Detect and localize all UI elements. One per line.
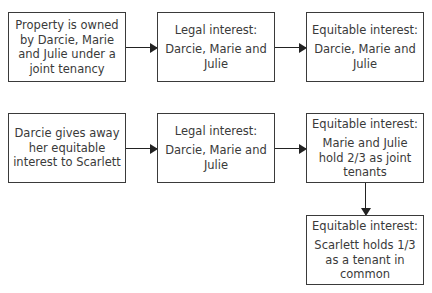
row2-arrow-down	[365, 183, 366, 215]
row2-equitable-split-title: Equitable interest:	[312, 219, 418, 234]
row1-legal-title: Legal interest:	[175, 23, 257, 38]
row1-start-box: Property is owned by Darcie, Marie and J…	[8, 12, 126, 82]
row1-arrow-2	[275, 47, 306, 48]
row1-equitable-title: Equitable interest:	[312, 23, 418, 38]
row2-equitable-split-box: Equitable interest: Scarlett holds 1/3 a…	[306, 215, 424, 285]
row1-arrow-1	[126, 47, 157, 48]
row2-legal-body: Darcie, Marie and Julie	[158, 143, 274, 172]
row2-start-box: Darcie gives away her equitable interest…	[8, 113, 126, 183]
row2-legal-box: Legal interest: Darcie, Marie and Julie	[157, 113, 275, 183]
row2-equitable-box: Equitable interest: Marie and Julie hold…	[306, 113, 424, 183]
row2-equitable-body: Marie and Julie hold 2/3 as joint tenant…	[307, 136, 423, 180]
row2-arrow-1	[126, 148, 157, 149]
row1-start-text: Property is owned by Darcie, Marie and J…	[9, 18, 125, 76]
row1-legal-box: Legal interest: Darcie, Marie and Julie	[157, 12, 275, 82]
row2-equitable-split-body: Scarlett holds 1/3 as a tenant in common	[307, 238, 423, 282]
row2-arrow-2	[275, 148, 306, 149]
row2-start-text: Darcie gives away her equitable interest…	[9, 126, 125, 170]
row2-legal-title: Legal interest:	[175, 124, 257, 139]
row2-equitable-title: Equitable interest:	[312, 117, 418, 132]
row1-equitable-body: Darcie, Marie and Julie	[307, 42, 423, 71]
row1-legal-body: Darcie, Marie and Julie	[158, 42, 274, 71]
row1-equitable-box: Equitable interest: Darcie, Marie and Ju…	[306, 12, 424, 82]
